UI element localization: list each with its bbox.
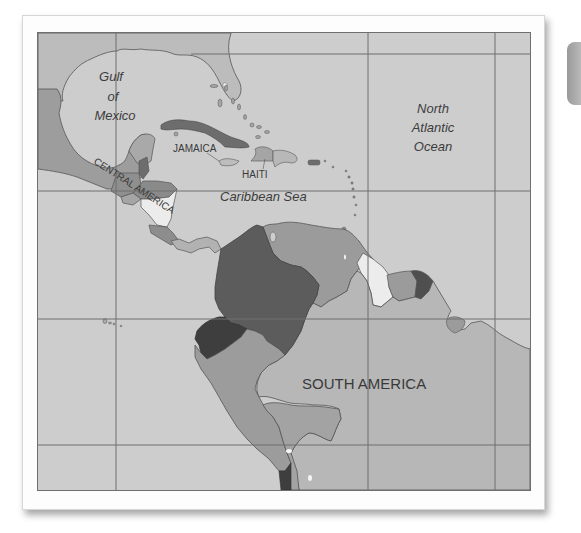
- lake-maracaibo: [270, 232, 276, 242]
- lake-titicaca: [286, 449, 292, 453]
- label-ocean-line-1: North: [417, 101, 449, 116]
- puerto-rico: [308, 160, 320, 165]
- label-south-america: SOUTH AMERICA: [302, 375, 426, 392]
- label-caribbean-sea: Caribbean Sea: [220, 189, 307, 204]
- label-gulf-line-2: of: [108, 89, 120, 104]
- label-jamaica: JAMAICA: [173, 143, 217, 154]
- label-gulf-line-3: Mexico: [94, 108, 135, 123]
- side-tab[interactable]: [567, 42, 581, 105]
- label-haiti: HAITI: [242, 169, 268, 180]
- reservoir: [344, 255, 346, 260]
- label-gulf-line-1: Gulf: [99, 69, 124, 84]
- label-ocean-line-3: Ocean: [414, 139, 452, 154]
- label-ocean-line-2: Atlantic: [411, 120, 455, 135]
- lake: [308, 475, 312, 481]
- map-frame: Gulf of Mexico North Atlantic Ocean Cari…: [37, 32, 531, 491]
- map-canvas: Gulf of Mexico North Atlantic Ocean Cari…: [38, 33, 530, 490]
